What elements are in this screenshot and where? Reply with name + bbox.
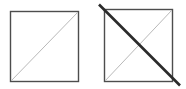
right-square-group	[99, 5, 180, 86]
left-square-diagonal	[11, 12, 78, 81]
figure-root: Two squares with diagonals Left square c…	[0, 0, 186, 89]
left-square-group	[11, 12, 79, 82]
figure-canvas: Two squares with diagonals Left square c…	[0, 0, 186, 89]
right-square-diagonal-falling	[99, 5, 180, 86]
